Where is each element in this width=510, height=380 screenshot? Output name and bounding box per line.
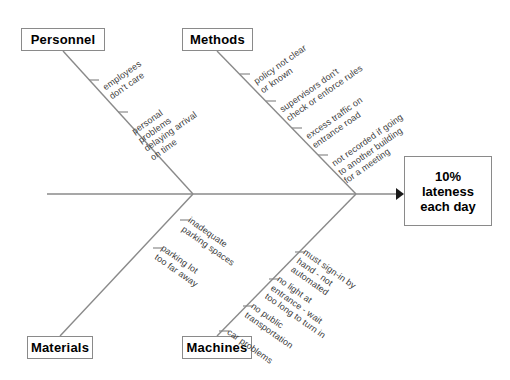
effect-line-2: lateness xyxy=(422,184,474,199)
effect-box: 10% lateness each day xyxy=(404,156,492,226)
category-box-methods: Methods xyxy=(182,28,253,51)
category-label-personnel: Personnel xyxy=(31,32,96,47)
effect-line-1: 10% xyxy=(435,169,461,184)
category-box-materials: Materials xyxy=(27,336,93,359)
spine-arrowhead xyxy=(396,188,404,200)
category-box-personnel: Personnel xyxy=(21,28,105,51)
category-label-materials: Materials xyxy=(31,340,89,355)
effect-line-3: each day xyxy=(420,199,476,214)
fishbone-diagram: Personnel Methods Materials Machines 10%… xyxy=(0,0,510,380)
category-label-methods: Methods xyxy=(190,32,245,47)
